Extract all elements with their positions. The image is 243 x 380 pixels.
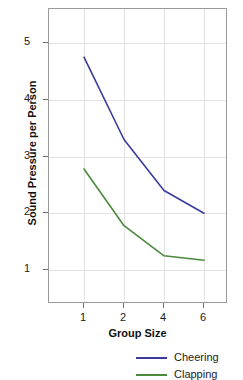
y-axis-title: Sound Pressure per Person	[26, 53, 38, 253]
y-axis-tick	[43, 212, 48, 213]
series-lines	[49, 9, 228, 304]
legend-label: Cheering	[174, 351, 219, 364]
y-axis-tick	[43, 269, 48, 270]
x-axis-tick-label: 2	[111, 311, 135, 323]
x-axis-tick-label: 4	[151, 311, 175, 323]
chart-figure: 54321 1246 Sound Pressure per Person Gro…	[0, 0, 243, 380]
legend-item-cheering[interactable]: Cheering	[136, 350, 243, 367]
x-axis-tick	[203, 303, 204, 308]
legend-label: Clapping	[174, 368, 217, 380]
legend-item-clapping[interactable]: Clapping	[136, 367, 243, 380]
legend-color-swatch	[136, 374, 167, 376]
plot-area	[48, 8, 227, 303]
series-line-cheering	[84, 57, 204, 213]
y-axis-tick	[43, 42, 48, 43]
y-axis-tick	[43, 156, 48, 157]
x-axis-tick-label: 6	[191, 311, 215, 323]
x-axis-tick-label: 1	[71, 311, 95, 323]
series-line-clapping	[84, 169, 204, 260]
x-axis-tick	[163, 303, 164, 308]
y-axis-tick-label: 5	[4, 36, 30, 47]
x-axis-tick	[123, 303, 124, 308]
legend-color-swatch	[136, 357, 167, 359]
x-axis-tick	[83, 303, 84, 308]
chart-title	[0, 0, 243, 5]
y-axis-tick-label: 1	[4, 263, 30, 274]
chart-legend: CheeringClapping	[136, 350, 243, 380]
x-axis-title: Group Size	[48, 327, 227, 339]
y-axis-tick	[43, 99, 48, 100]
